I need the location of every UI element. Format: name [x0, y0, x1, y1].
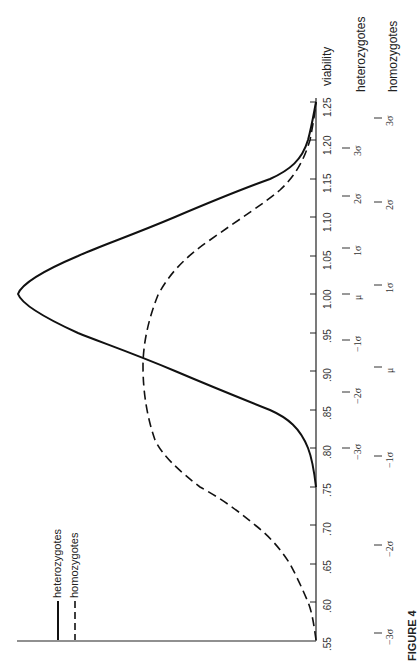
hom-row-label: homozygotes — [386, 21, 400, 92]
sigma-label: 3σ — [352, 146, 363, 156]
tick-label: .65 — [322, 560, 333, 574]
tick-label: .85 — [322, 406, 333, 420]
tick-label: .80 — [322, 445, 333, 459]
tick-label: .95 — [322, 329, 333, 343]
axis-ticks — [310, 102, 316, 602]
sigma-label: 3σ — [384, 116, 395, 126]
sigma-label: −1σ — [352, 336, 363, 352]
axis-title: viability — [320, 47, 334, 86]
tick-label: .60 — [322, 599, 333, 613]
tick-label: 1.15 — [322, 174, 333, 193]
sigma-label: 2σ — [384, 200, 395, 210]
sigma-label: −2σ — [384, 541, 395, 557]
tick-label: 1.25 — [322, 98, 333, 117]
sigma-label: −3σ — [384, 629, 395, 645]
sigma-label: μ — [352, 295, 363, 300]
sigma-label: μ — [384, 368, 395, 373]
tick-label: 1.05 — [322, 251, 333, 270]
tick-label: .55 — [322, 637, 333, 651]
legend-label-heterozygotes: heterozygotes — [51, 529, 63, 598]
tick-label: 1.00 — [322, 290, 333, 309]
het-row-label: heterozygotes — [354, 17, 368, 92]
tick-label: 1.10 — [322, 213, 333, 232]
legend-label-homozygotes: homozygotes — [68, 533, 80, 598]
tick-label: .90 — [322, 368, 333, 382]
tick-label: .75 — [322, 483, 333, 497]
sigma-label: −2σ — [352, 388, 363, 404]
homozygotes-curve — [143, 102, 316, 640]
sigma-label: 1σ — [384, 283, 395, 293]
figure-caption: FIGURE 4 — [406, 610, 417, 661]
heterozygotes-curve — [18, 102, 316, 487]
tick-label: .70 — [322, 522, 333, 536]
hom-sigma-ticks — [374, 118, 382, 633]
sigma-label: −3σ — [352, 444, 363, 460]
sigma-label: 2σ — [352, 194, 363, 204]
sigma-label: 1σ — [352, 246, 363, 256]
tick-label: 1.20 — [322, 136, 333, 155]
het-sigma-ticks — [342, 148, 350, 448]
sigma-label: −1σ — [384, 452, 395, 468]
